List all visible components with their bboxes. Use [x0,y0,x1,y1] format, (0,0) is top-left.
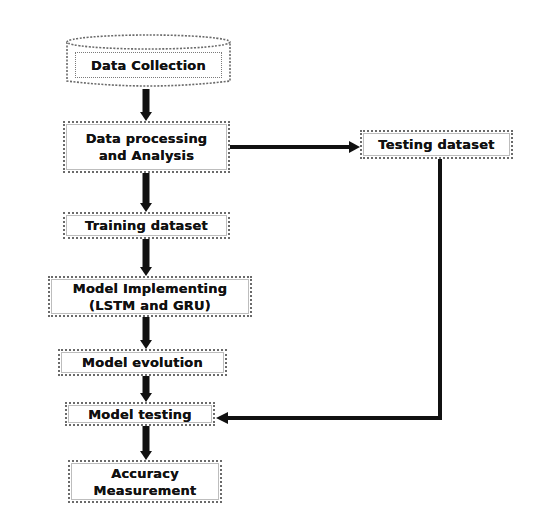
arrow-implementing-to-evolution [140,317,152,349]
arrow-collection-to-processing [140,89,152,121]
training-dataset-label: Training dataset [85,217,208,234]
arrow-evolution-to-testing [140,376,152,402]
data-collection-label-frame: Data Collection [75,52,222,78]
testing-dataset-label: Testing dataset [378,136,494,153]
model-implementing-label-line1: Model Implementing [73,280,227,297]
node-model-testing: Model testing [65,402,215,426]
data-processing-label-line1: Data processing [86,130,208,147]
node-accuracy-measurement: Accuracy Measurement [68,460,222,503]
accuracy-measurement-label-line2: Measurement [94,482,197,499]
accuracy-measurement-label-line1: Accuracy [94,465,197,482]
arrow-processing-to-training [140,173,152,212]
flowchart-canvas: Data Collection Data processing and Anal… [0,0,535,530]
node-model-implementing: Model Implementing (LSTM and GRU) [48,276,252,317]
model-evolution-label: Model evolution [82,354,203,371]
node-testing-dataset: Testing dataset [360,130,513,159]
node-model-evolution: Model evolution [58,349,227,376]
arrow-training-to-implementing [140,239,152,276]
node-data-processing: Data processing and Analysis [63,121,230,173]
arrow-testing-to-accuracy [140,426,152,460]
arrow-processing-to-testing [230,141,360,153]
node-data-collection: Data Collection [65,33,232,90]
model-testing-label: Model testing [88,406,192,423]
data-collection-label: Data Collection [91,58,206,73]
model-implementing-label-line2: (LSTM and GRU) [73,297,227,314]
node-training-dataset: Training dataset [63,212,230,239]
data-processing-label-line2: and Analysis [86,147,208,164]
